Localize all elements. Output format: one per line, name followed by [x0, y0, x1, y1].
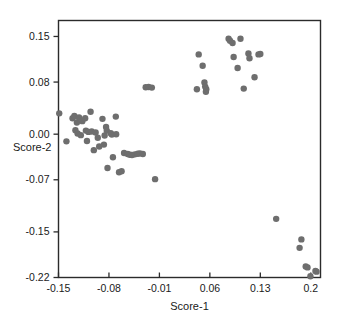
scatter-point [241, 85, 247, 91]
scatter-point [113, 113, 119, 119]
scatter-point [152, 176, 158, 182]
scatter-point [257, 51, 263, 57]
x-tick-label: 0.06 [200, 282, 221, 294]
scatter-point [203, 86, 209, 92]
y-tick-label: -0.22 [26, 271, 50, 283]
x-tick-label: -0.08 [97, 282, 121, 294]
scatter-point [304, 264, 310, 270]
scatter-point [298, 236, 304, 242]
scatter-point [101, 141, 107, 147]
scatter-point [246, 55, 252, 61]
scatter-point [87, 109, 93, 115]
x-tick-label: 0.2 [303, 282, 318, 294]
scatter-point [91, 147, 97, 153]
scatter-point [237, 36, 243, 42]
scatter-point [78, 132, 84, 138]
x-axis-title: Score-1 [170, 300, 209, 312]
scatter-point [118, 168, 124, 174]
scatter-point [313, 268, 319, 274]
scatter-point [56, 110, 62, 116]
scatter-point [234, 65, 240, 71]
y-tick-label: 0.08 [29, 76, 50, 88]
scatter-point [99, 116, 105, 122]
plot-canvas: -0.15-0.08-0.010.060.130.2 0.150.080.00-… [0, 0, 342, 323]
scatter-point [230, 54, 236, 60]
x-tick-label: -0.15 [47, 282, 71, 294]
figure-background [0, 0, 342, 323]
scatter-point [82, 115, 88, 121]
scatter-point [194, 86, 200, 92]
scatter-point [229, 40, 235, 46]
x-tick-label: 0.13 [250, 282, 271, 294]
scatter-point [110, 154, 116, 160]
scatter-point [273, 216, 279, 222]
scatter-point [251, 74, 257, 80]
scatter-point [95, 135, 101, 141]
scatter-point [84, 138, 90, 144]
y-tick-label: 0.00 [29, 128, 50, 140]
y-tick-label: -0.07 [26, 173, 50, 185]
scatter-point [307, 273, 313, 279]
x-tick-label: -0.01 [147, 282, 171, 294]
scatter-point [113, 131, 119, 137]
scatter-point [195, 51, 201, 57]
y-tick-label: 0.15 [29, 30, 50, 42]
scatter-point [63, 138, 69, 144]
y-axis-title: Score-2 [13, 141, 52, 153]
scatter-point [140, 151, 146, 157]
scatter-point [199, 63, 205, 69]
y-tick-label: -0.15 [26, 225, 50, 237]
scatter-point [296, 245, 302, 251]
scatter-point [104, 165, 110, 171]
scatter-point [149, 84, 155, 90]
scatter-plot-figure: -0.15-0.08-0.010.060.130.2 0.150.080.00-… [0, 0, 342, 323]
